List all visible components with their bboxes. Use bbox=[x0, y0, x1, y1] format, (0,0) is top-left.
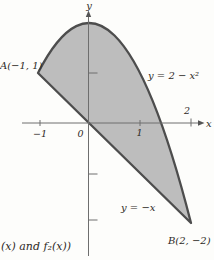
plot-svg: x y −1 0 1 2 A(−1, 1) B(2, −2) y = 2 − x… bbox=[0, 0, 214, 260]
x-ticklabel-1: 1 bbox=[136, 127, 142, 138]
figure-canvas: x y −1 0 1 2 A(−1, 1) B(2, −2) y = 2 − x… bbox=[0, 0, 214, 260]
y-axis-label: y bbox=[85, 0, 92, 11]
parabola-equation-label: y = 2 − x² bbox=[147, 70, 199, 81]
x-ticklabel-2: 2 bbox=[183, 105, 190, 116]
point-b-label: B(2, −2) bbox=[167, 235, 211, 246]
x-ticklabel-neg1: −1 bbox=[33, 128, 47, 139]
x-ticklabel-0: 0 bbox=[77, 128, 83, 139]
caption-fragment: (x) and f₂(x)) bbox=[1, 240, 71, 253]
line-equation-label: y = −x bbox=[120, 202, 156, 213]
x-axis-label: x bbox=[206, 118, 212, 129]
point-a-label: A(−1, 1) bbox=[0, 60, 43, 71]
y-axis-arrow-icon bbox=[86, 11, 91, 18]
x-axis-arrow-icon bbox=[198, 120, 205, 125]
